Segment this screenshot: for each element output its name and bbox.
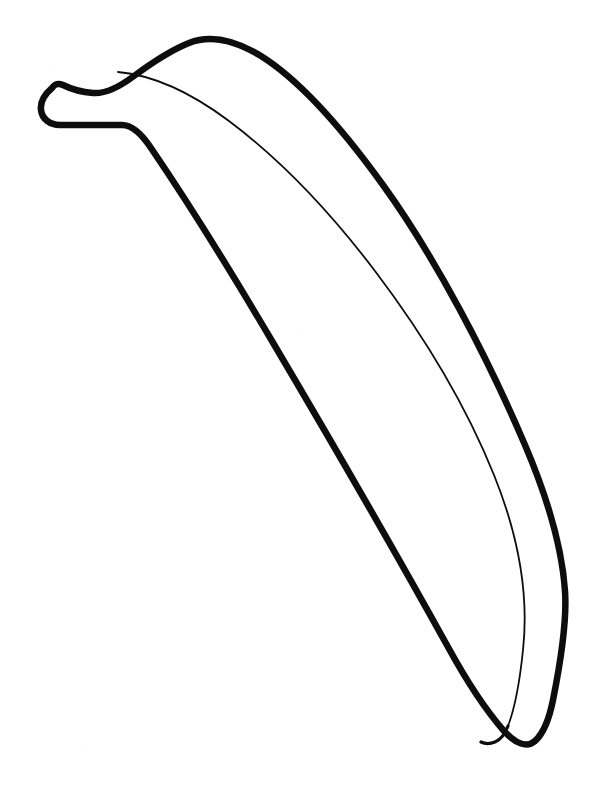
banana-line-art	[0, 0, 593, 795]
coloring-page-canvas	[0, 0, 593, 795]
